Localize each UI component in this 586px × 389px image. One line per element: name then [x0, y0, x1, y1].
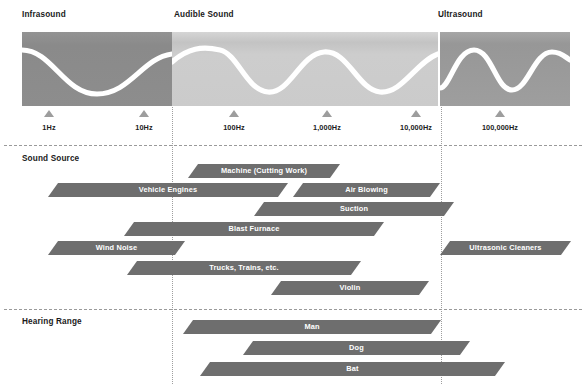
bar-label: Air Blowing [345, 186, 388, 193]
infographic-canvas: Infrasound Audible Sound Ultrasound [0, 0, 586, 389]
bar-label: Trucks, Trains, etc. [209, 264, 279, 271]
tick-label-10000hz: 10,000Hz [400, 123, 432, 132]
bar-violin[interactable]: Violin [271, 281, 429, 295]
separator-above-sound-source [4, 145, 582, 146]
bar-blast-furnace[interactable]: Blast Furnace [124, 222, 384, 236]
band-label-ultrasound: Ultrasound [438, 10, 483, 19]
tick-label-100000hz: 100,000Hz [482, 123, 518, 132]
waveform-panel-infrasound [22, 32, 172, 106]
bar-ultrasonic-cleaners[interactable]: Ultrasonic Cleaners [440, 241, 571, 255]
bar-man[interactable]: Man [183, 320, 441, 334]
tick-label-100hz: 100Hz [223, 123, 245, 132]
band-label-audible-sound: Audible Sound [174, 10, 234, 19]
bar-trucks-trains-etc[interactable]: Trucks, Trains, etc. [127, 261, 361, 275]
bar-label: Wind Noise [96, 244, 138, 251]
section-title-hearing-range: Hearing Range [22, 317, 82, 326]
tick-marker-1hz [44, 110, 54, 117]
bar-label: Ultrasonic Cleaners [469, 244, 541, 251]
tick-label-10hz: 10Hz [135, 123, 152, 132]
bar-label: Machine (Cutting Work) [221, 167, 307, 174]
section-title-sound-source: Sound Source [22, 154, 79, 163]
bar-label: Suction [340, 205, 368, 212]
waveform-panel-audible-sound [172, 32, 438, 106]
bar-dog[interactable]: Dog [243, 341, 470, 355]
waveform-panel-ultrasound [440, 32, 570, 106]
bar-bat[interactable]: Bat [200, 362, 505, 376]
bar-suction[interactable]: Suction [254, 202, 454, 216]
bar-label: Man [304, 323, 319, 330]
bar-air-blowing[interactable]: Air Blowing [293, 183, 440, 197]
bar-wind-noise[interactable]: Wind Noise [48, 241, 185, 255]
bar-label: Vehicle Engines [139, 186, 198, 193]
bar-machine-cutting-work[interactable]: Machine (Cutting Work) [188, 164, 340, 178]
tick-label-1hz: 1Hz [42, 123, 55, 132]
tick-marker-10hz [139, 110, 149, 117]
tick-marker-1000hz [322, 110, 332, 117]
bar-label: Dog [349, 344, 364, 351]
band-label-infrasound: Infrasound [22, 10, 66, 19]
bar-label: Bat [346, 365, 358, 372]
tick-label-1000hz: 1,000Hz [313, 123, 341, 132]
bar-label: Blast Furnace [229, 225, 280, 232]
bar-vehicle-engines[interactable]: Vehicle Engines [48, 183, 288, 197]
bar-label: Violin [340, 284, 361, 291]
tick-marker-100hz [229, 110, 239, 117]
separator-above-hearing-range [4, 309, 582, 310]
tick-marker-10000hz [411, 110, 421, 117]
tick-marker-100000hz [495, 110, 505, 117]
